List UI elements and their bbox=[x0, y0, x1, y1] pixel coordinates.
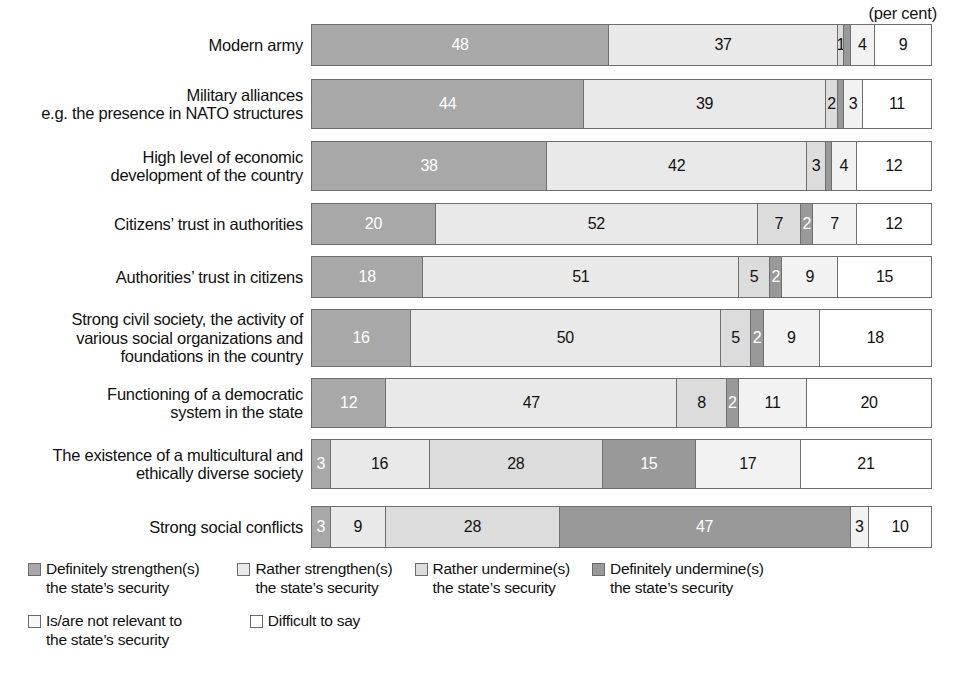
bar-segment-value: 2 bbox=[728, 394, 737, 412]
bar-segment: 10 bbox=[869, 507, 931, 547]
bar-segment: 20 bbox=[312, 204, 436, 244]
bar-segment: 15 bbox=[603, 440, 696, 488]
row-spacer bbox=[0, 129, 959, 141]
bar-segment: 3 bbox=[807, 142, 826, 190]
bar-row-label-line: Military alliances bbox=[0, 86, 303, 104]
bar-row-label: Strong civil society, the activity ofvar… bbox=[0, 310, 311, 365]
legend-label-line: Definitely undermine(s) bbox=[610, 560, 764, 579]
legend-row-primary: Definitely strengthen(s)the state’s secu… bbox=[0, 560, 959, 598]
bar-segment: 3 bbox=[851, 507, 870, 547]
bar-segment-value: 42 bbox=[668, 157, 685, 175]
chart-bar-row: The existence of a multicultural andethi… bbox=[0, 439, 959, 489]
row-spacer bbox=[0, 66, 959, 79]
bar-segment: 7 bbox=[813, 204, 856, 244]
legend-item[interactable]: Definitely undermine(s)the state’s secur… bbox=[592, 560, 764, 598]
bar-row-label-line: The existence of a multicultural and bbox=[0, 446, 303, 464]
legend-item[interactable]: Difficult to say bbox=[250, 612, 360, 650]
bar-segment: 8 bbox=[677, 379, 727, 427]
bar-segment: 11 bbox=[739, 379, 807, 427]
bar-segment: 2 bbox=[751, 310, 763, 366]
row-spacer bbox=[0, 428, 959, 439]
chart-bar-row: High level of economicdevelopment of the… bbox=[0, 141, 959, 191]
bar-segment-value: 8 bbox=[697, 394, 706, 412]
legend-label-line: the state’s security bbox=[610, 579, 764, 598]
chart-bar-row: Citizens’ trust in authorities205272712 bbox=[0, 203, 959, 245]
bar-segment: 9 bbox=[782, 257, 838, 297]
bar-segment-value: 44 bbox=[439, 95, 456, 113]
bar-segment-value: 9 bbox=[787, 329, 796, 347]
stacked-bar: 44392311 bbox=[311, 79, 932, 129]
bar-segment: 16 bbox=[331, 440, 430, 488]
bar-row-label-line: various social organizations and bbox=[0, 329, 303, 347]
row-spacer bbox=[0, 245, 959, 256]
legend-row-secondary: Is/are not relevant tothe state’s securi… bbox=[0, 612, 959, 650]
legend-item[interactable]: Rather strengthen(s)the state’s security bbox=[237, 560, 392, 598]
stacked-bar-chart: (per cent) Modern army4837149Military al… bbox=[0, 0, 959, 680]
bar-segment-value: 3 bbox=[849, 95, 858, 113]
bar-segment: 7 bbox=[758, 204, 801, 244]
legend-swatch-difficult-to-say-icon bbox=[250, 615, 263, 628]
bar-row-label-line: Modern army bbox=[0, 36, 303, 54]
bar-row-label-line: Citizens’ trust in authorities bbox=[0, 215, 303, 233]
stacked-bar: 1247821120 bbox=[311, 378, 932, 428]
legend-swatch-definitely-undermine-icon bbox=[592, 563, 605, 576]
bar-segment: 2 bbox=[826, 80, 838, 128]
bar-segment-value: 21 bbox=[857, 455, 874, 473]
bar-segment: 50 bbox=[411, 310, 721, 366]
chart-bar-row: Strong social conflicts392847310 bbox=[0, 506, 959, 548]
bar-row-label: Modern army bbox=[0, 36, 311, 54]
chart-bar-row: Authorities’ trust in citizens185152915 bbox=[0, 256, 959, 298]
bar-segment: 4 bbox=[832, 142, 857, 190]
bar-row-label-line: ethically diverse society bbox=[0, 464, 303, 482]
bar-segment-value: 52 bbox=[588, 215, 605, 233]
bar-segment-value: 5 bbox=[731, 329, 740, 347]
bar-segment-value: 20 bbox=[365, 215, 382, 233]
bar-segment: 37 bbox=[609, 25, 838, 65]
bar-segment-value: 17 bbox=[739, 455, 756, 473]
bar-segment-value: 5 bbox=[750, 268, 759, 286]
legend-swatch-not-relevant-icon bbox=[28, 615, 41, 628]
bar-segment: 21 bbox=[801, 440, 931, 488]
bar-segment-value: 12 bbox=[885, 157, 902, 175]
bar-segment-value: 9 bbox=[899, 36, 908, 54]
bar-row-label-line: Functioning of a democratic bbox=[0, 385, 303, 403]
bar-segment: 15 bbox=[838, 257, 931, 297]
chart-bar-row: Modern army4837149 bbox=[0, 24, 959, 66]
bar-segment-value: 7 bbox=[775, 215, 784, 233]
bar-row-label-line: e.g. the presence in NATO structures bbox=[0, 104, 303, 122]
legend-label: Is/are not relevant tothe state’s securi… bbox=[46, 612, 182, 650]
bar-segment-value: 7 bbox=[830, 215, 839, 233]
bar-segment: 39 bbox=[584, 80, 825, 128]
legend-label-line: Rather strengthen(s) bbox=[255, 560, 392, 579]
stacked-bar: 38423412 bbox=[311, 141, 932, 191]
legend-label-line: Rather undermine(s) bbox=[433, 560, 570, 579]
bar-segment-value: 15 bbox=[640, 455, 657, 473]
bar-segment-value: 3 bbox=[316, 455, 325, 473]
bar-row-label-line: Authorities’ trust in citizens bbox=[0, 268, 303, 286]
bar-row-label-line: Strong civil society, the activity of bbox=[0, 310, 303, 328]
chart-bar-row: Strong civil society, the activity ofvar… bbox=[0, 309, 959, 367]
legend-item[interactable]: Rather undermine(s)the state’s security bbox=[415, 560, 570, 598]
bar-segment: 4 bbox=[851, 25, 876, 65]
bar-segment-value: 47 bbox=[696, 518, 713, 536]
bar-segment-value: 18 bbox=[867, 329, 884, 347]
chart-plot-area: Modern army4837149Military alliancese.g.… bbox=[0, 24, 959, 548]
bar-segment-value: 12 bbox=[340, 394, 357, 412]
bar-segment-value: 4 bbox=[858, 36, 867, 54]
bar-segment: 9 bbox=[331, 507, 387, 547]
bar-row-label: The existence of a multicultural andethi… bbox=[0, 446, 311, 483]
bar-segment: 3 bbox=[312, 440, 331, 488]
bar-row-label-line: Strong social conflicts bbox=[0, 518, 303, 536]
bar-segment-value: 2 bbox=[753, 329, 762, 347]
bar-segment-value: 3 bbox=[316, 518, 325, 536]
bar-segment-value: 2 bbox=[827, 95, 836, 113]
row-spacer bbox=[0, 298, 959, 309]
bar-row-label: Functioning of a democraticsystem in the… bbox=[0, 385, 311, 422]
legend-label: Definitely strengthen(s)the state’s secu… bbox=[46, 560, 199, 598]
legend-item[interactable]: Is/are not relevant tothe state’s securi… bbox=[28, 612, 182, 650]
legend-item[interactable]: Definitely strengthen(s)the state’s secu… bbox=[28, 560, 199, 598]
row-spacer bbox=[0, 367, 959, 378]
legend-label-line: the state’s security bbox=[255, 579, 392, 598]
chart-legend: Definitely strengthen(s)the state’s secu… bbox=[0, 560, 959, 650]
bar-segment: 16 bbox=[312, 310, 411, 366]
